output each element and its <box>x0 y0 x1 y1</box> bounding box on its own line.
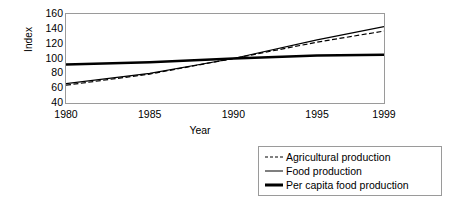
x-axis-title: Year <box>0 124 400 136</box>
legend-item-label: Per capita food production <box>286 179 409 191</box>
y-axis-tick-label: 100 <box>37 53 63 63</box>
thick-line-key-icon <box>264 179 284 191</box>
x-axis-tick-label: 1999 <box>364 108 404 120</box>
plot-frame <box>65 13 385 104</box>
y-axis-tick-label: 120 <box>37 38 63 48</box>
x-axis-tick-label: 1995 <box>297 108 337 120</box>
chart-area: Index 160140120100806040 198019851990199… <box>0 0 400 150</box>
x-axis-tick-label: 1985 <box>130 108 170 120</box>
series-line <box>66 55 384 65</box>
legend-item: Per capita food production <box>264 178 437 192</box>
y-axis-tick-labels: 160140120100806040 <box>33 0 63 110</box>
legend-item-label: Food production <box>286 165 362 177</box>
thin-line-key-icon <box>264 165 284 177</box>
x-axis-tick-label: 1980 <box>46 108 86 120</box>
y-axis-tick-label: 80 <box>37 67 63 77</box>
x-axis-tick-labels: 19801985199019951999 <box>0 108 400 124</box>
y-axis-tick-label: 160 <box>37 8 63 18</box>
legend-item-label: Agricultural production <box>286 151 390 163</box>
chart-figure: Index 160140120100806040 198019851990199… <box>0 0 449 206</box>
y-axis-title: Index <box>23 10 34 70</box>
legend-item: Agricultural production <box>264 150 437 164</box>
series-canvas <box>66 14 384 103</box>
y-axis-tick-label: 40 <box>37 97 63 107</box>
y-axis-tick-label: 140 <box>37 23 63 33</box>
y-axis-tick-label: 60 <box>37 82 63 92</box>
legend-item: Food production <box>264 164 437 178</box>
x-axis-tick-label: 1990 <box>213 108 253 120</box>
chart-legend: Agricultural production Food production … <box>258 146 442 196</box>
dashed-line-key-icon <box>264 151 284 163</box>
